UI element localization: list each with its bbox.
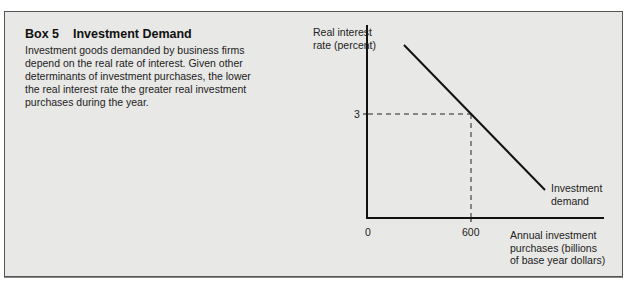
x-axis-label-line: of base year dollars) — [510, 254, 605, 267]
y-tick-label-3: 3 — [354, 108, 360, 121]
investment-demand-line — [404, 45, 545, 190]
x-axis-label-line: Annual investment — [510, 229, 605, 242]
x-axis-label-line: purchases (billions — [510, 242, 605, 255]
curve-label: Investment demand — [551, 182, 602, 207]
curve-label-line: demand — [551, 195, 602, 208]
x-tick-label-0: 0 — [365, 226, 371, 239]
x-tick-label-600: 600 — [462, 226, 480, 239]
y-axis-label-line: rate (percent) — [313, 39, 376, 52]
y-axis-label-line: Real interest — [313, 26, 376, 39]
x-axis-label: Annual investment purchases (billions of… — [510, 229, 605, 267]
curve-label-line: Investment — [551, 182, 602, 195]
y-axis-label: Real interest rate (percent) — [313, 26, 376, 51]
